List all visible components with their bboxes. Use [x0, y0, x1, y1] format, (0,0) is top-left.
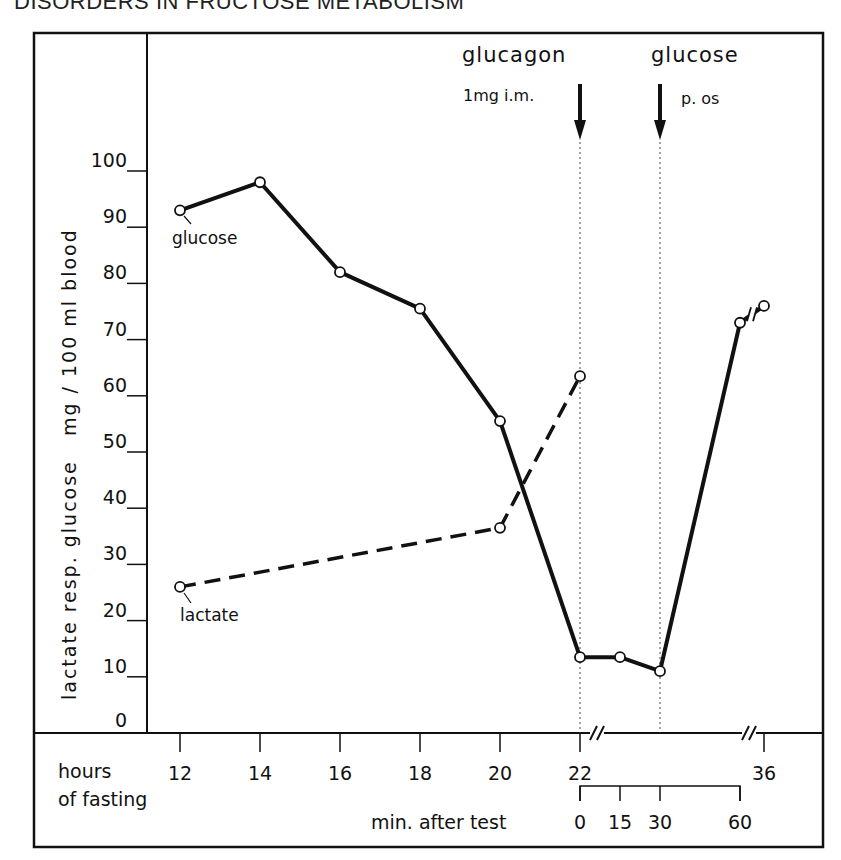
data-point-marker	[575, 371, 585, 381]
x-axis-ticks: 12141618202236	[168, 733, 776, 784]
glucagon-annotation: glucagon	[462, 43, 566, 67]
glucose-arrow-icon	[654, 84, 666, 140]
series-glucose	[175, 177, 769, 676]
data-point-marker	[655, 666, 665, 676]
data-point-marker	[495, 416, 505, 426]
data-point-marker	[759, 301, 769, 311]
data-point-marker	[415, 304, 425, 314]
data-point-marker	[175, 582, 185, 592]
y-axis-label: lactate resp. glucose mg / 100 ml blood	[58, 228, 80, 700]
data-point-marker	[575, 652, 585, 662]
x-tick-label: 22	[568, 762, 592, 784]
data-point-marker	[335, 267, 345, 277]
glucose-annotation: glucose	[651, 43, 739, 67]
minute-tick-label: 0	[574, 811, 586, 833]
y-tick-label: 30	[103, 542, 127, 564]
data-point-marker	[735, 318, 745, 328]
secondary-x-axis-label: min. after test	[371, 811, 506, 833]
minute-tick-label: 30	[648, 811, 672, 833]
lactate-label-leader	[184, 593, 191, 603]
x-tick-label: 36	[752, 762, 776, 784]
y-tick-label: 0	[115, 709, 127, 731]
data-point-marker	[495, 523, 505, 533]
y-tick-label: 80	[103, 261, 127, 283]
series-lactate	[175, 371, 585, 592]
x-tick-label: 16	[328, 762, 352, 784]
glucose-route-annotation: p. os	[681, 89, 719, 108]
y-tick-label: 20	[103, 599, 127, 621]
minute-tick-label: 15	[608, 811, 632, 833]
chart-frame	[34, 33, 823, 847]
glucagon-dose-annotation: 1mg i.m.	[463, 86, 534, 105]
minutes-after-test-scale: 0153060	[574, 786, 752, 833]
y-tick-label: 70	[103, 318, 127, 340]
lactate-series-label: lactate	[180, 605, 239, 625]
y-axis-ticks: 0102030405060708090100	[91, 149, 147, 731]
data-point-marker	[615, 652, 625, 662]
x-tick-label: 12	[168, 762, 192, 784]
y-tick-label: 90	[103, 205, 127, 227]
glucose-series-label: glucose	[172, 228, 237, 248]
y-tick-label: 60	[103, 374, 127, 396]
chart: 0102030405060708090100 12141618202236 la…	[0, 0, 841, 860]
data-point-marker	[255, 177, 265, 187]
minute-tick-label: 60	[728, 811, 752, 833]
y-tick-label: 10	[103, 655, 127, 677]
x-axis-label-line1: hours	[58, 760, 111, 782]
glucose-label-leader	[184, 216, 191, 224]
y-tick-label: 50	[103, 430, 127, 452]
y-tick-label: 100	[91, 149, 127, 171]
data-point-marker	[175, 205, 185, 215]
y-tick-label: 40	[103, 486, 127, 508]
x-tick-label: 14	[248, 762, 272, 784]
x-tick-label: 18	[408, 762, 432, 784]
x-axis-label-line2: of fasting	[58, 788, 147, 810]
x-tick-label: 20	[488, 762, 512, 784]
glucagon-arrow-icon	[574, 84, 586, 140]
